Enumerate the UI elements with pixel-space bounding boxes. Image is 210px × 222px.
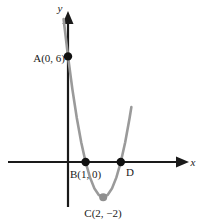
point-A-marker bbox=[64, 52, 72, 60]
point-C-marker bbox=[99, 193, 107, 201]
x-axis-arrowhead bbox=[176, 157, 189, 168]
coordinate-plane-svg: y x A(0, 6) B(1, 0) C(2, −2) D bbox=[0, 0, 210, 222]
x-axis-label: x bbox=[190, 156, 196, 168]
x-axis bbox=[8, 157, 189, 168]
point-D-marker bbox=[117, 158, 125, 166]
parabola-figure: y x A(0, 6) B(1, 0) C(2, −2) D bbox=[0, 0, 210, 222]
y-axis-label: y bbox=[57, 2, 63, 14]
point-C-label: C(2, −2) bbox=[84, 207, 122, 220]
point-D-label: D bbox=[126, 166, 134, 178]
point-B-label: B(1, 0) bbox=[70, 168, 102, 181]
point-A-label: A(0, 6) bbox=[33, 52, 65, 65]
point-B-marker bbox=[81, 158, 89, 166]
